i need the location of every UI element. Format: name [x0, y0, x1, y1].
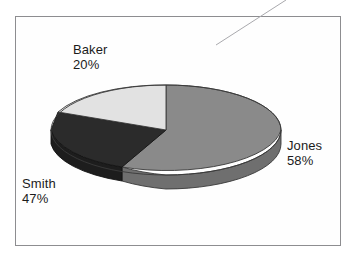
slice-label-smith-name: Smith — [22, 176, 56, 191]
slice-label-jones: Jones 58% — [287, 138, 322, 168]
pie-chart-figure: Baker 20% Jones 58% Smith 47% — [0, 0, 356, 261]
pie-chart-graphic — [0, 0, 356, 261]
slice-label-smith: Smith 47% — [22, 176, 56, 206]
slice-label-baker-value: 20% — [73, 57, 107, 72]
slice-label-jones-name: Jones — [287, 138, 322, 153]
slice-label-baker: Baker 20% — [73, 42, 107, 72]
scan-artifact-line — [216, 0, 286, 45]
slice-label-smith-value: 47% — [22, 191, 56, 206]
slice-label-baker-name: Baker — [73, 42, 107, 57]
slice-label-jones-value: 58% — [287, 153, 322, 168]
